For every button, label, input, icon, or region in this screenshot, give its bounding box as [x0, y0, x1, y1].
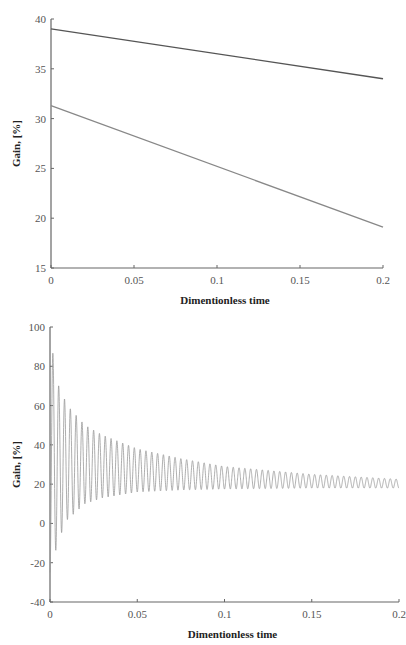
x-axis-title: Dimentionless time	[188, 628, 278, 640]
y-axis-title: Gain, [%]	[10, 120, 22, 167]
x-tick-label: 0.2	[392, 608, 406, 620]
chart-top-gain-vs-time: 15202530354000.050.10.150.2Dimentionless…	[0, 0, 406, 310]
x-tick-label: 0.1	[218, 608, 232, 620]
x-tick-label: 0.1	[210, 274, 224, 286]
y-tick-label: -40	[30, 596, 45, 608]
series-damped-oscillation	[50, 353, 399, 572]
y-tick-label: 40	[35, 13, 47, 25]
series-lower-line	[51, 106, 383, 228]
chart-bottom-gain-oscillation: -40-2002040608010000.050.10.150.2Dimenti…	[0, 315, 406, 645]
y-tick-label: 80	[34, 360, 46, 372]
x-tick-label: 0.15	[302, 608, 322, 620]
y-tick-label: 20	[34, 478, 46, 490]
y-tick-label: 0	[40, 517, 46, 529]
x-tick-label: 0.05	[124, 274, 144, 286]
y-tick-label: 100	[29, 321, 46, 333]
y-tick-label: 25	[35, 162, 47, 174]
series-upper-line	[51, 29, 383, 79]
x-tick-label: 0.2	[376, 274, 390, 286]
chart-bottom-canvas: -40-2002040608010000.050.10.150.2Dimenti…	[0, 315, 406, 645]
y-tick-label: 40	[34, 439, 46, 451]
y-axis-title: Gain, [%]	[10, 441, 22, 488]
x-tick-label: 0.15	[290, 274, 310, 286]
y-tick-label: -20	[30, 557, 45, 569]
y-tick-label: 20	[35, 212, 47, 224]
y-tick-label: 60	[34, 400, 46, 412]
chart-top-canvas: 15202530354000.050.10.150.2Dimentionless…	[0, 0, 406, 310]
x-tick-label: 0	[47, 608, 53, 620]
y-tick-label: 30	[35, 113, 47, 125]
x-axis-title: Dimentionless time	[180, 294, 270, 306]
y-tick-label: 35	[35, 63, 47, 75]
y-tick-label: 15	[35, 262, 47, 274]
x-tick-label: 0	[48, 274, 54, 286]
x-tick-label: 0.05	[128, 608, 148, 620]
